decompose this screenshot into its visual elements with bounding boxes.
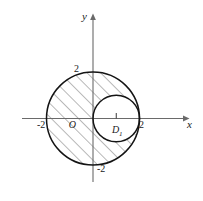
- figure-container: y x 2 -2 -2 2 O D 1: [0, 0, 203, 201]
- x-axis-label: x: [186, 118, 192, 130]
- region-label-subscript: 1: [119, 130, 123, 138]
- x-tick-label-2: 2: [139, 119, 144, 130]
- circle-region-figure: y x 2 -2 -2 2 O D 1: [0, 0, 203, 201]
- y-tick-label-minus-2: -2: [97, 163, 105, 174]
- origin-label: O: [69, 119, 76, 130]
- y-tick-label-2: 2: [74, 63, 79, 74]
- x-tick-label-minus-2: -2: [37, 119, 45, 130]
- y-axis-label: y: [81, 10, 87, 22]
